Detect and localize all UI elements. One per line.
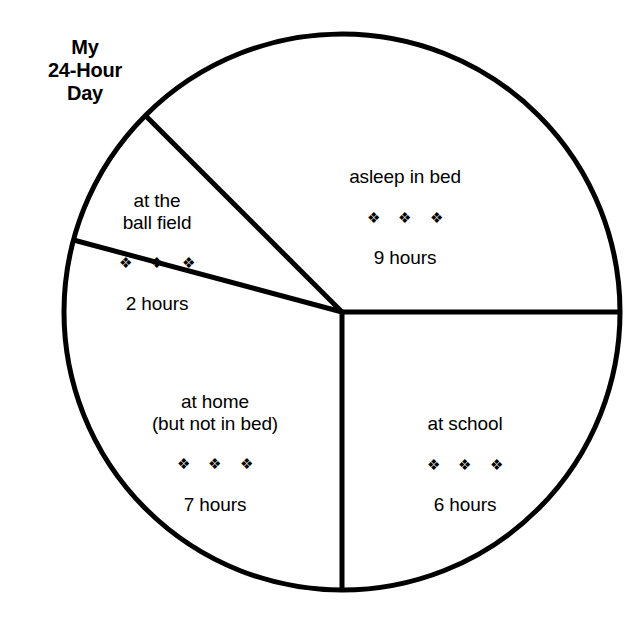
chart-title: My 24-Hour Day [20, 36, 150, 105]
slice-label-at-home: at home (but not in bed) ❖ ❖ ❖ 7 hours [115, 370, 315, 537]
slice-label-at-the-ball-field: at the ball field ❖ ❖ ❖ 2 hours [92, 169, 222, 336]
slice-label-at-school: at school ❖ ❖ ❖ 6 hours [375, 392, 555, 537]
diamond-ornament-icon: ❖ ❖ ❖ [92, 254, 222, 271]
diamond-ornament-icon: ❖ ❖ ❖ [305, 209, 505, 226]
pie-chart-figure: My 24-Hour Day asleep in bed ❖ ❖ ❖ 9 hou… [0, 0, 643, 620]
slice-label-at-home-hours: 7 hours [115, 494, 315, 516]
slice-label-at-school-hours: 6 hours [375, 494, 555, 516]
diamond-ornament-icon: ❖ ❖ ❖ [375, 456, 555, 473]
slice-label-asleep-in-bed-name: asleep in bed [305, 166, 505, 187]
slice-label-at-school-name: at school [375, 413, 555, 434]
slice-label-asleep-in-bed-hours: 9 hours [305, 247, 505, 269]
diamond-ornament-icon: ❖ ❖ ❖ [115, 455, 315, 472]
slice-label-at-the-ball-field-name: at the ball field [92, 190, 222, 233]
slice-label-at-the-ball-field-hours: 2 hours [92, 293, 222, 315]
slice-label-asleep-in-bed: asleep in bed ❖ ❖ ❖ 9 hours [305, 145, 505, 290]
slice-label-at-home-name: at home (but not in bed) [115, 391, 315, 434]
